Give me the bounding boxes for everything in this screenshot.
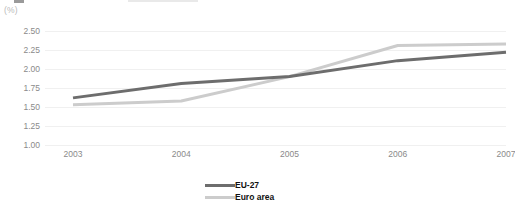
series-line-euro-area [73, 44, 506, 105]
legend-swatch-icon [205, 196, 235, 199]
x-axis-tick-label: 2007 [497, 149, 515, 159]
chart-legend: EU-27Euro area [0, 180, 514, 202]
y-axis-tick-label: 1.25 [6, 121, 40, 131]
y-axis-tick-label: 2.25 [6, 45, 40, 55]
y-axis-unit-label: (%) [4, 5, 18, 15]
y-axis-tick-labels: 2.502.252.001.751.501.251.00 [0, 31, 40, 145]
y-axis-tick-label: 1.75 [6, 83, 40, 93]
y-axis-tick-label: 2.50 [6, 26, 40, 36]
legend-label: Euro area [235, 192, 274, 202]
legend-swatch-icon [205, 184, 235, 187]
cropped-element-top-right [128, 0, 198, 2]
plot-area [45, 31, 506, 145]
x-axis-tick-label: 2005 [280, 149, 299, 159]
y-axis-tick-label: 1.00 [6, 140, 40, 150]
x-axis-tick-label: 2003 [64, 149, 83, 159]
legend-item[interactable]: Euro area [205, 192, 309, 202]
cropped-element-top-left [14, 0, 24, 3]
legend-item[interactable]: EU-27 [205, 180, 309, 190]
x-axis-tick-label: 2004 [172, 149, 191, 159]
y-axis-tick-label: 1.50 [6, 102, 40, 112]
x-axis-tick-label: 2006 [388, 149, 407, 159]
legend-label: EU-27 [235, 180, 259, 190]
x-axis-tick-labels: 20032004200520062007 [45, 149, 506, 165]
y-axis-tick-label: 2.00 [6, 64, 40, 74]
gridline [45, 145, 506, 146]
series-lines [45, 31, 506, 145]
